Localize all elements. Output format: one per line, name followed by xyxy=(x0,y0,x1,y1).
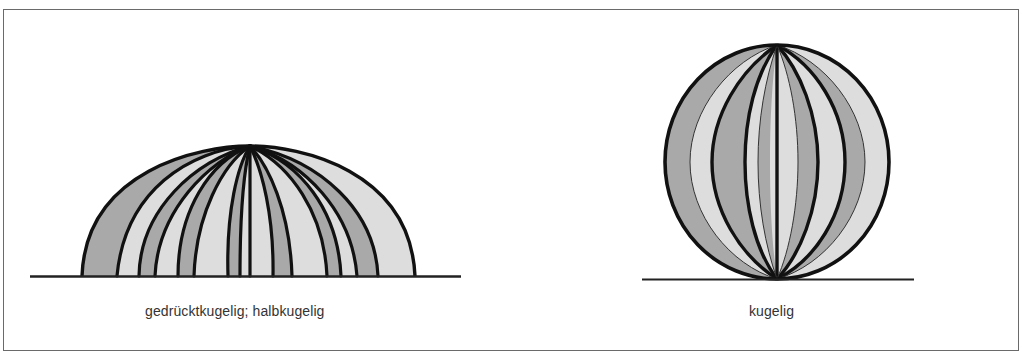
dome-shape xyxy=(30,140,461,280)
caption-dome: gedrücktkugelig; halbkugelig xyxy=(145,303,324,319)
sphere-shape xyxy=(642,40,914,285)
caption-sphere: kugelig xyxy=(749,303,794,319)
